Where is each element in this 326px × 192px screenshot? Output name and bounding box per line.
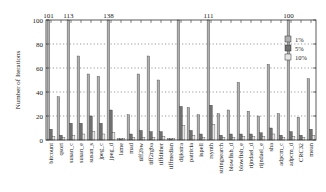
bar-5% <box>150 132 153 140</box>
bar-10% <box>82 134 85 140</box>
bar-10% <box>262 136 265 140</box>
bar-10% <box>252 136 255 140</box>
bar-5% <box>190 130 193 140</box>
bar-10% <box>242 136 245 140</box>
bar-5% <box>270 128 273 140</box>
bar-5% <box>100 123 103 140</box>
bar-10% <box>292 136 295 140</box>
bar-5% <box>140 130 143 140</box>
bar-1% <box>257 116 260 140</box>
x-tick-label: blowfish_e <box>237 143 244 171</box>
y-tick-label: 60 <box>36 65 44 73</box>
bar-10% <box>52 136 55 140</box>
bar-10% <box>192 135 195 140</box>
bar-5% <box>220 135 223 140</box>
bar-5% <box>60 135 63 140</box>
bar-1% <box>307 79 310 140</box>
bar-1% <box>277 114 280 140</box>
bar-5% <box>280 135 283 140</box>
bar-10% <box>112 133 115 140</box>
bar-1% <box>197 115 200 140</box>
bar-1% <box>297 117 300 140</box>
clipped-value-label: 101 <box>43 12 54 20</box>
legend-label: 1% <box>295 36 304 43</box>
bar-5% <box>310 129 313 140</box>
legend-swatch <box>285 36 291 42</box>
bars <box>47 20 315 140</box>
x-tick-label: patricia <box>187 143 194 162</box>
bar-5% <box>90 116 93 140</box>
bar-10% <box>162 136 165 140</box>
bar-1% <box>267 64 270 140</box>
bar-1% <box>237 82 240 140</box>
bar-1% <box>227 110 230 140</box>
bar-5% <box>210 105 213 140</box>
bar-1% <box>217 114 220 140</box>
x-tick-label: tiffmedian <box>167 142 174 169</box>
bar-5% <box>260 133 263 140</box>
clipped-value-labels: 101113138111100 <box>43 12 294 20</box>
bar-5% <box>130 134 133 140</box>
bar-5% <box>50 129 53 140</box>
bar-10% <box>92 132 95 140</box>
x-tick-label: bitcount <box>47 143 54 164</box>
bar-5% <box>230 134 233 140</box>
x-tick-label: susan_s <box>87 142 94 162</box>
legend-label: 10% <box>295 54 308 61</box>
x-tick-label: jpeg_c <box>97 143 104 161</box>
x-tick-label: rijndael_d <box>247 142 254 168</box>
legend-label: 5% <box>295 45 304 52</box>
bar-5% <box>200 134 203 140</box>
bar-10% <box>212 124 215 140</box>
bar-1% <box>67 20 70 140</box>
x-tick-label: rijndael_e <box>257 143 264 168</box>
bar-1% <box>157 80 160 140</box>
legend-swatch <box>285 45 291 51</box>
bar-10% <box>272 134 275 140</box>
bar-5% <box>70 123 73 140</box>
x-tick-label: sha <box>267 143 274 152</box>
bar-1% <box>247 111 250 140</box>
x-tick-label: tiffdither <box>157 142 164 165</box>
bar-5% <box>240 134 243 140</box>
x-tick-label: jpeg_d <box>107 142 114 161</box>
x-tick-label: susan_e <box>77 143 84 163</box>
x-tick-label: stringsearch <box>217 142 224 173</box>
y-tick-label: 40 <box>36 89 44 97</box>
bar-1% <box>47 20 50 140</box>
clipped-value-label: 138 <box>103 12 114 20</box>
x-tick-label: qsort <box>57 143 64 156</box>
y-tick-label: 0 <box>40 137 44 145</box>
x-tick-label: mean <box>307 142 314 156</box>
x-axis-ticks <box>51 20 311 23</box>
y-tick-label: 80 <box>36 41 44 49</box>
x-tick-label: mad <box>127 142 134 154</box>
bar-1% <box>57 97 60 140</box>
x-tick-label: tiff2bw <box>137 143 144 162</box>
legend-swatch <box>285 54 291 60</box>
x-tick-label: CRC32 <box>297 143 304 162</box>
y-axis-ticks: 020406080100 <box>33 17 317 145</box>
bar-5% <box>110 110 113 140</box>
bar-1% <box>107 20 110 140</box>
x-tick-label: dijkstra <box>177 143 184 162</box>
bar-5% <box>300 135 303 140</box>
clipped-value-label: 100 <box>283 12 294 20</box>
grid-lines <box>46 44 316 116</box>
bar-10% <box>182 126 185 140</box>
bar-1% <box>187 108 190 140</box>
bar-5% <box>180 106 183 140</box>
bar-10% <box>72 135 75 140</box>
x-tick-label: ispell <box>197 143 204 157</box>
x-axis-labels: bitcountqsortsusan_csusan_esusan_sjpeg_c… <box>47 142 314 173</box>
y-axis-label: Number of Iterations <box>14 50 22 109</box>
bar-10% <box>102 134 105 140</box>
x-tick-label: lame <box>117 143 124 155</box>
bar-1% <box>177 20 180 140</box>
x-tick-label: susan_c <box>67 143 74 163</box>
bar-1% <box>147 56 150 140</box>
bar-10% <box>312 135 315 140</box>
bar-chart: 020406080100 101113138111100 bitcountqso… <box>0 0 326 192</box>
bar-5% <box>290 132 293 140</box>
bar-1% <box>207 20 210 140</box>
